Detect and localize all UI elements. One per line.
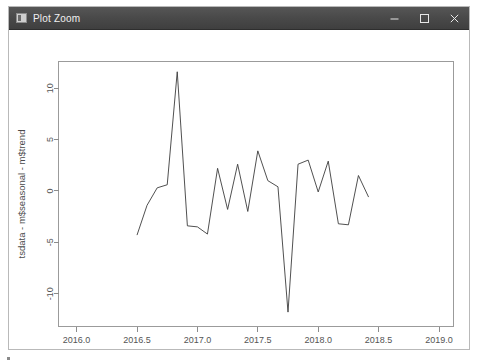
window-title: Plot Zoom [33,13,379,24]
maximize-icon [419,13,430,24]
window-controls [379,7,469,29]
plot-window-icon [16,13,27,23]
x-tick-label: 2019.0 [425,335,453,345]
close-icon [449,13,460,24]
minimize-button[interactable] [379,7,409,29]
y-tick-label: -10 [45,287,55,300]
plot-zoom-window: Plot Zoom [8,6,470,350]
y-tick-label: 0 [45,188,55,193]
window-titlebar[interactable]: Plot Zoom [9,7,469,30]
x-tick-label: 2017.5 [244,335,272,345]
timeseries-plot: -10-50510 2016.02016.52017.02017.52018.0… [9,30,469,349]
y-tick-label: 10 [45,83,55,93]
minimize-icon [389,13,400,24]
y-axis-tick-labels: -10-50510 [45,83,55,300]
maximize-button[interactable] [409,7,439,29]
y-tick-label: -5 [45,238,55,246]
data-series-line [137,72,369,312]
close-button[interactable] [439,7,469,29]
screen: Plot Zoom [0,0,478,364]
x-axis-tick-labels: 2016.02016.52017.02017.52018.02018.52019… [63,335,453,345]
desktop-speck [7,357,10,360]
x-tick-label: 2016.5 [123,335,151,345]
plot-frame [59,62,454,327]
x-tick-label: 2017.0 [184,335,212,345]
x-tick-label: 2018.5 [365,335,393,345]
x-tick-label: 2018.0 [304,335,332,345]
y-axis-title: tsdata - m$seasonal - m$trend [16,130,27,259]
x-tick-label: 2016.0 [63,335,91,345]
y-tick-label: 5 [45,137,55,142]
window-body: -10-50510 2016.02016.52017.02017.52018.0… [9,30,469,349]
plot-canvas[interactable]: -10-50510 2016.02016.52017.02017.52018.0… [9,30,469,349]
x-axis-ticks [77,327,439,332]
